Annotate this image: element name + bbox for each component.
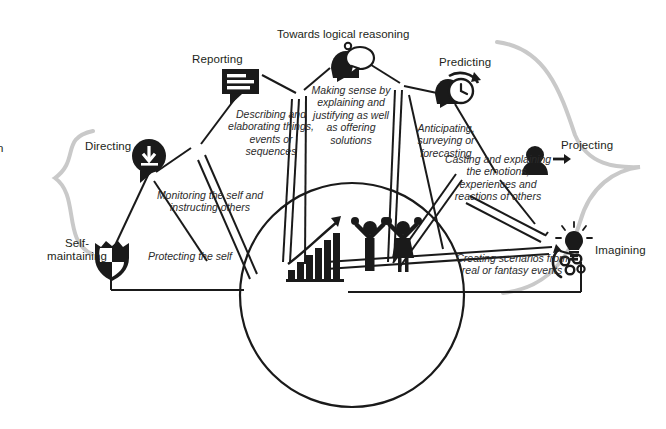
description-self-maintaining: Protecting the self xyxy=(128,250,252,262)
description-directing: Monitoring the self and instructing othe… xyxy=(152,189,268,214)
head-speech-bubble-icon xyxy=(331,43,374,82)
wedge-predicting-left xyxy=(404,86,437,93)
center-circle xyxy=(240,183,464,407)
wedge-projecting-lower-b xyxy=(466,203,541,242)
node-label-self-maintaining-line1: Self- xyxy=(65,237,89,249)
head-clock-icon xyxy=(435,72,481,108)
wedge-directing-outer xyxy=(111,173,149,254)
description-reporting: Describing and elaborating things, event… xyxy=(226,108,316,158)
speech-bubble-down-arrow-icon xyxy=(132,139,166,183)
node-label-reporting: Reporting xyxy=(192,53,243,65)
node-label-self-maintaining-line2: maintaining xyxy=(47,250,107,262)
node-label-imagining: Imagining xyxy=(595,244,646,256)
description-imagining: Creating scenarios from real or fantasy … xyxy=(452,252,572,277)
speech-bubble-lines-icon xyxy=(222,69,259,105)
description-explaining: Making sense by explaining and justifyin… xyxy=(308,84,394,146)
diagram-vector-layer xyxy=(0,0,666,429)
description-projecting: Casting and explaining the emotions, exp… xyxy=(440,153,556,203)
wedge-explaining-top xyxy=(368,63,400,83)
left-cut-text: n xyxy=(0,142,4,154)
node-label-self-maintaining: Self- maintaining xyxy=(41,237,113,263)
diagram-canvas: Towards logical reasoning n Self- mainta… xyxy=(0,0,666,429)
diagram-heading: Towards logical reasoning xyxy=(277,28,409,40)
wedge-projecting-cap xyxy=(545,232,548,236)
node-label-predicting: Predicting xyxy=(439,56,491,68)
wedge-reporting-top xyxy=(262,75,296,93)
node-label-projecting: Projecting xyxy=(561,139,613,151)
node-label-directing: Directing xyxy=(85,140,131,152)
